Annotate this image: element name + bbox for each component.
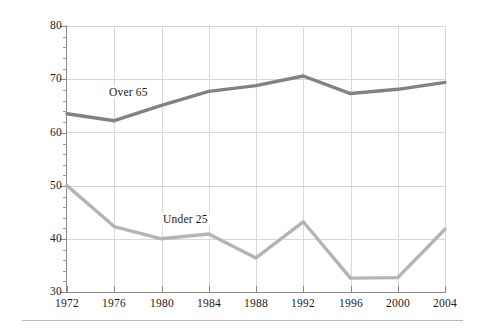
y-minor-tick [63,228,67,229]
x-tick-1996 [351,286,352,293]
y-minor-tick [63,111,67,112]
y-minor-tick [63,197,67,198]
y-minor-tick [63,207,67,208]
x-tick-1976 [114,286,115,293]
x-tick-label-1972: 1972 [44,297,90,309]
y-minor-tick [63,175,67,176]
gridline-x-1980 [162,26,163,292]
x-tick-2000 [398,286,399,293]
x-tick-label-1984: 1984 [186,297,232,309]
y-minor-tick [63,154,67,155]
chart-figure: 80 70 60 50 40 30 Percent Voting 1972 19… [0,0,478,330]
y-minor-tick [63,69,67,70]
x-tick-label-1992: 1992 [280,297,326,309]
y-minor-tick [63,218,67,219]
y-minor-tick [63,47,67,48]
y-tick-label-40: 40 [32,232,62,244]
y-minor-tick [63,260,67,261]
gridline-x-1976 [114,26,115,292]
x-tick-label-1980: 1980 [139,297,185,309]
y-minor-tick [63,271,67,272]
y-minor-tick [63,101,67,102]
series-label-over-65: Over 65 [107,86,150,98]
x-tick-label-2000: 2000 [375,297,421,309]
bottom-divider [22,320,463,321]
x-tick-1980 [162,286,163,293]
gridline-x-2000 [398,26,399,292]
y-minor-tick [63,58,67,59]
x-tick-1988 [256,286,257,293]
gridline-x-1988 [256,26,257,292]
gridline-x-1984 [209,26,210,292]
y-tick-label-50: 50 [32,179,62,191]
y-minor-tick [63,281,67,282]
x-tick-2004 [445,286,446,293]
gridline-x-2004 [445,26,446,292]
y-tick-label-70: 70 [32,72,62,84]
gridline-x-1996 [351,26,352,292]
y-tick-label-30: 30 [32,285,62,297]
y-tick-label-60: 60 [32,126,62,138]
y-minor-tick [63,144,67,145]
y-minor-tick [63,122,67,123]
y-minor-tick [63,90,67,91]
y-tick-label-80: 80 [32,19,62,31]
series-label-under-25: Under 25 [161,213,210,225]
x-tick-1992 [303,286,304,293]
y-minor-tick [63,250,67,251]
x-tick-1972 [67,286,68,293]
y-axis-line [66,25,67,293]
y-minor-tick [63,165,67,166]
x-tick-label-1988: 1988 [233,297,279,309]
x-tick-label-1996: 1996 [328,297,374,309]
x-tick-label-2004: 2004 [422,297,468,309]
plot-area [67,26,445,292]
x-tick-1984 [209,286,210,293]
gridline-x-1992 [303,26,304,292]
y-minor-tick [63,37,67,38]
x-tick-label-1976: 1976 [91,297,137,309]
